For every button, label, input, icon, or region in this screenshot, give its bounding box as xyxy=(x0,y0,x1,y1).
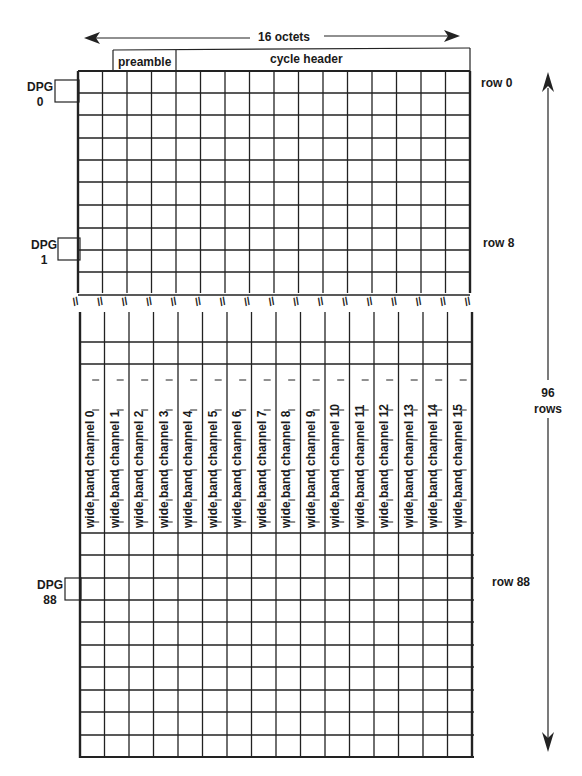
channel-label: wide band channel 13 xyxy=(402,404,416,528)
dpg-name: DPG xyxy=(36,578,64,593)
break-marker-icon: // xyxy=(95,295,105,308)
channel-label: wide band channel 7 xyxy=(255,411,269,528)
break-marker-icon: // xyxy=(340,295,350,308)
header-top-line xyxy=(113,48,470,50)
channel-label: wide band channel 0 xyxy=(83,411,97,528)
row-0-label: row 0 xyxy=(481,76,512,90)
channel-label: wide band channel 10 xyxy=(328,404,342,528)
dpg-name: DPG xyxy=(26,80,54,95)
break-marker-icon: // xyxy=(438,295,448,308)
rows-unit: rows xyxy=(528,401,568,417)
dpg-number: 88 xyxy=(36,593,64,608)
row-88-label: row 88 xyxy=(492,575,530,589)
dpg-1-box xyxy=(58,238,80,260)
break-marker-icon: // xyxy=(218,295,228,308)
channel-label: wide band channel 5 xyxy=(206,411,220,528)
break-marker-icon: // xyxy=(316,295,326,308)
channel-label: wide band channel 9 xyxy=(304,411,318,528)
dpg-0-label: DPG 0 xyxy=(26,80,54,110)
break-marker-icon: // xyxy=(193,295,203,308)
dpg-0-box xyxy=(55,80,79,102)
dpg-number: 1 xyxy=(30,253,58,268)
channel-label: wide band channel 11 xyxy=(353,405,367,528)
dpg-number: 0 xyxy=(26,95,54,110)
grid-lines: ////////////////////////////////// xyxy=(0,0,582,776)
break-marker-icon: // xyxy=(291,295,301,308)
octets-label: 16 octets xyxy=(252,30,316,44)
channel-label: wide band channel 8 xyxy=(279,411,293,528)
break-marker-icon: // xyxy=(242,295,252,308)
break-marker-icon: // xyxy=(389,295,399,308)
break-marker-icon: // xyxy=(144,295,154,308)
preamble-label: preamble xyxy=(118,55,171,69)
dpg-88-box xyxy=(65,578,81,600)
rows-total-label: 96 rows xyxy=(528,385,568,417)
channel-label: wide band channel 6 xyxy=(230,411,244,528)
break-marker-icon: // xyxy=(267,295,277,308)
channel-label: wide band channel 4 xyxy=(181,411,195,528)
channel-label: wide band channel 2 xyxy=(132,411,146,528)
dpg-88-label: DPG 88 xyxy=(36,578,64,608)
dpg-1-label: DPG 1 xyxy=(30,238,58,268)
break-marker-icon: // xyxy=(463,295,473,308)
dpg-name: DPG xyxy=(30,238,58,253)
break-marker-icon: // xyxy=(365,295,375,308)
break-marker-icon: // xyxy=(414,295,424,308)
break-marker-icon: // xyxy=(71,295,81,308)
break-marker-icon: // xyxy=(120,295,130,308)
cycle-header-label: cycle header xyxy=(270,52,343,66)
channel-label: wide band channel 1 xyxy=(108,411,122,528)
channel-label: wide band channel 14 xyxy=(426,404,440,528)
channel-label: wide band channel 3 xyxy=(157,411,171,528)
channel-label: wide band channel 15 xyxy=(451,404,465,528)
row-8-label: row 8 xyxy=(483,236,514,250)
channel-label: wide band channel 12 xyxy=(377,404,391,528)
break-marker-icon: // xyxy=(169,295,179,308)
rows-count: 96 xyxy=(528,385,568,401)
